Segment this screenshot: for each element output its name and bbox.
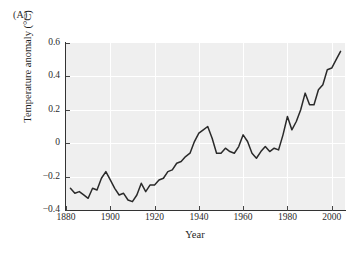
y-axis-tick-label: −0.2 [36,172,60,182]
x-axis-tick-label: 1920 [135,213,175,223]
x-axis-tick [287,206,288,211]
x-axis-tick [66,206,67,211]
y-axis-line [65,42,66,211]
x-axis-tick [110,206,111,211]
y-axis-title: Temperature anomaly (°C) [22,0,33,147]
x-axis-tick [243,206,244,211]
x-axis-title: Year [145,229,245,240]
y-axis-tick-label: 0.2 [36,105,60,115]
x-axis-tick [155,206,156,211]
y-axis-tick [66,177,70,178]
x-axis-tick-label: 1960 [223,213,263,223]
y-axis-tick-label: 0 [36,138,60,148]
y-axis-tick-label: 0.4 [36,71,60,81]
x-axis-tick-label: 1880 [46,213,86,223]
figure-panel-a: (A) −0.4−0.200.20.40.6 18801900192019401… [0,0,357,254]
y-axis-tick [66,43,70,44]
x-axis-tick [199,206,200,211]
y-axis-tick [66,110,70,111]
x-axis-tick-label: 2000 [312,213,352,223]
y-axis-tick [66,76,70,77]
y-axis-tick-label: 0.6 [36,38,60,48]
x-axis-tick [332,206,333,211]
y-axis-tick [66,143,70,144]
x-axis-tick-label: 1940 [179,213,219,223]
x-axis-tick-label: 1980 [267,213,307,223]
x-axis-tick-label: 1900 [90,213,130,223]
